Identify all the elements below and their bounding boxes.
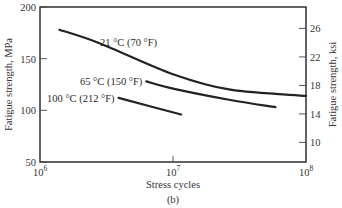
series-labels: 21 °C (70 °F)65 °C (150 °F)100 °C (212 °… <box>47 37 158 105</box>
figure-caption: (b) <box>167 194 180 206</box>
y2-tick-label: 14 <box>310 109 321 120</box>
series-label: 65 °C (150 °F) <box>80 76 143 88</box>
y-axis-title: Fatigue strength, MPa <box>3 38 14 131</box>
y2-tick-label: 22 <box>310 52 321 63</box>
series-label: 100 °C (212 °F) <box>47 93 115 105</box>
axis-ticks: 501001502001014182226106107108 <box>20 2 321 178</box>
y2-tick-label: 10 <box>310 137 321 148</box>
y-tick-label: 100 <box>20 105 36 116</box>
y2-tick-label: 18 <box>310 80 321 91</box>
x-tick-label: 106 <box>33 164 48 178</box>
series-line <box>119 98 182 115</box>
x-axis-title: Stress cycles <box>146 179 200 190</box>
fatigue-chart: 501001502001014182226106107108 21 °C (70… <box>0 0 342 208</box>
x-tick-label: 107 <box>166 164 181 178</box>
y-tick-label: 150 <box>20 54 36 65</box>
x-tick-label: 108 <box>299 164 314 178</box>
y2-axis-title: Fatigue strength, ksi <box>327 42 338 128</box>
y2-tick-label: 26 <box>310 23 321 34</box>
series-label: 21 °C (70 °F) <box>100 37 158 49</box>
y-tick-label: 200 <box>20 2 36 13</box>
